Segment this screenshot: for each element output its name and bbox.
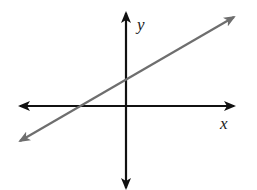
x-axis-label: x (219, 114, 228, 133)
coordinate-plane: y x (0, 0, 257, 190)
y-axis-label: y (135, 15, 145, 34)
